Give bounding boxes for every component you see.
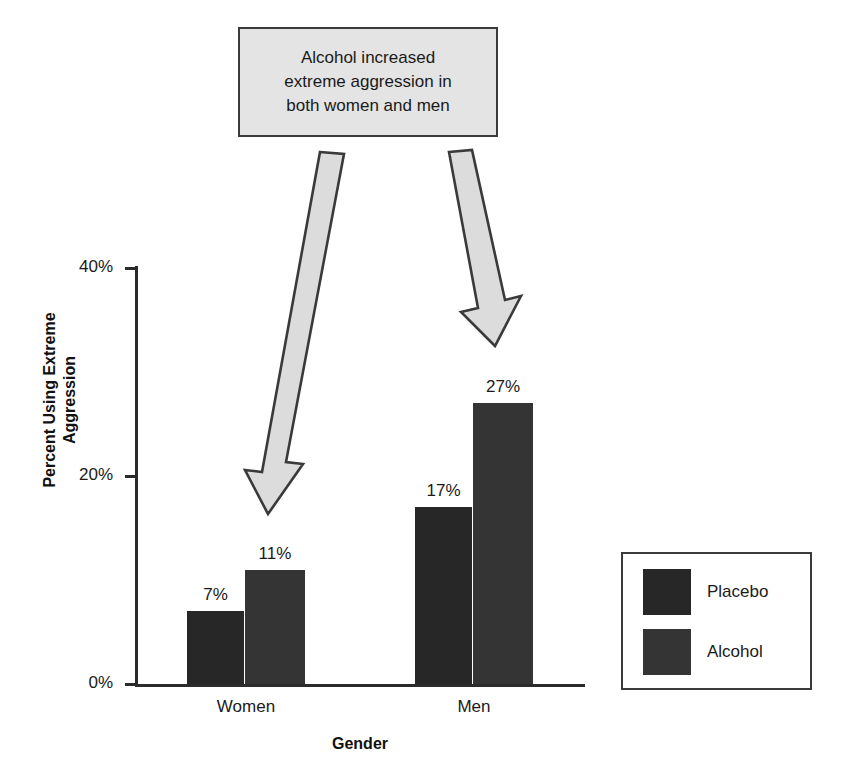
x-axis-title: Gender — [135, 735, 585, 753]
callout-line-1: Alcohol increased — [301, 46, 435, 70]
legend-item-alcohol: Alcohol — [643, 629, 763, 675]
bar-women-placebo — [187, 611, 244, 684]
legend-item-placebo: Placebo — [643, 569, 768, 615]
bar-women-alcohol — [245, 570, 305, 684]
x-tick-label-women: Women — [186, 697, 306, 717]
y-axis-title-line-1: Percent Using Extreme — [41, 312, 58, 487]
arrow-to-men-icon — [449, 150, 521, 346]
x-tick-label-men: Men — [414, 697, 534, 717]
legend-label-placebo: Placebo — [707, 582, 768, 602]
legend-label-alcohol: Alcohol — [707, 642, 763, 662]
legend: Placebo Alcohol — [621, 552, 812, 690]
bar-label-women-alcohol: 11% — [245, 544, 305, 564]
bar-men-alcohol — [473, 403, 533, 684]
bar-men-placebo — [415, 507, 472, 684]
callout-line-3: both women and men — [286, 94, 450, 118]
y-tick-label-0: 0% — [43, 673, 113, 693]
x-axis-line — [135, 684, 585, 687]
legend-swatch-placebo-icon — [643, 569, 691, 615]
arrow-to-women-icon — [245, 152, 344, 514]
y-tick-label-40: 40% — [43, 257, 113, 277]
callout-box: Alcohol increased extreme aggression in … — [238, 27, 498, 137]
bar-label-women-placebo: 7% — [187, 585, 244, 605]
y-axis-title-line-2: Aggression — [61, 356, 78, 444]
y-tick-label-20: 20% — [43, 465, 113, 485]
chart-figure: Alcohol increased extreme aggression in … — [0, 0, 843, 772]
callout-line-2: extreme aggression in — [284, 70, 451, 94]
legend-swatch-alcohol-icon — [643, 629, 691, 675]
bar-label-men-placebo: 17% — [415, 481, 472, 501]
bar-label-men-alcohol: 27% — [473, 377, 533, 397]
